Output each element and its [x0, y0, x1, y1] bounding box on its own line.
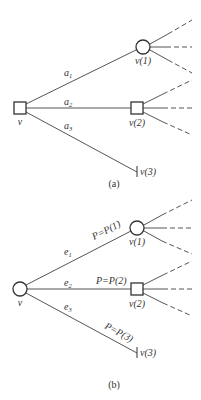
- decision-tree-figure: v v(1) v(2) v(3) a1 a2 a3 (a): [0, 0, 201, 400]
- node-label-v3-b: v(3): [140, 347, 157, 359]
- caption-a: (a): [108, 178, 119, 190]
- node-label-v1-b: v(1): [129, 236, 146, 248]
- node-label-v3-a: v(3): [140, 166, 157, 178]
- edge-label-a3: a3: [64, 120, 73, 132]
- diagram-a: v v(1) v(2) v(3) a1 a2 a3 (a): [14, 20, 192, 190]
- edge-label-e1: e1: [64, 246, 72, 258]
- edge-label-e2: e2: [64, 277, 72, 289]
- branches-v2: [143, 80, 192, 135]
- decision-node-v: [14, 102, 26, 114]
- chance-node-v: [13, 282, 27, 296]
- branches-v1-b: [144, 200, 192, 254]
- decision-node-v2: [131, 102, 143, 114]
- decision-node-v2-b: [131, 283, 143, 295]
- edge-label-a1: a1: [64, 67, 72, 79]
- branches-v1: [150, 20, 192, 73]
- root-label-b: v: [18, 297, 23, 308]
- prob-label-2: P=P(2): [95, 275, 127, 287]
- chance-node-v1: [136, 40, 150, 54]
- edge-label-a2: a2: [64, 96, 73, 108]
- caption-b: (b): [108, 379, 120, 391]
- edge-a1: [26, 50, 136, 104]
- prob-label-1: P=P(1): [89, 218, 123, 243]
- branches-v2-b: [143, 261, 192, 316]
- node-label-v2-a: v(2): [129, 117, 146, 129]
- prob-label-3: P=P(3): [102, 320, 136, 346]
- node-label-v1-a: v(1): [135, 55, 152, 67]
- diagram-b: v v(1) v(2) v(3) e1 e2 e3 P=P(1) P=P(2) …: [13, 200, 192, 391]
- edge-e3: [26, 293, 137, 353]
- chance-node-v1-b: [130, 221, 144, 235]
- node-label-v2-b: v(2): [129, 298, 146, 310]
- edge-label-e3: e3: [64, 301, 72, 313]
- edge-a3: [26, 112, 137, 172]
- root-label-a: v: [18, 116, 23, 127]
